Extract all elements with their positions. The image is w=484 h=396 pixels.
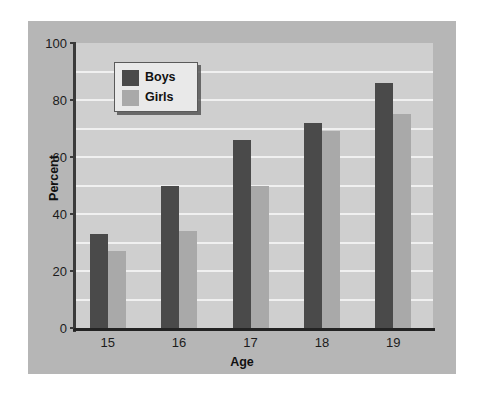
legend-label-girls: Girls [145, 90, 174, 105]
bar-girls-16 [179, 231, 197, 328]
x-axis-line [73, 328, 435, 331]
bar-boys-19 [375, 83, 393, 328]
y-tick-mark [70, 327, 74, 329]
x-tick-label: 18 [292, 336, 352, 350]
y-tick-mark [70, 270, 74, 272]
bar-girls-17 [251, 186, 269, 329]
y-tick-label: 100 [33, 37, 67, 50]
bar-girls-15 [108, 251, 126, 328]
x-tick-label: 15 [78, 336, 138, 350]
y-tick-mark [70, 156, 74, 158]
y-tick-label: 0 [33, 322, 67, 335]
legend-label-boys: Boys [145, 70, 176, 85]
y-tick-mark [70, 42, 74, 44]
y-tick-label: 80 [33, 94, 67, 107]
chart-legend: BoysGirls [114, 62, 198, 112]
x-tick-label: 16 [149, 336, 209, 350]
bar-boys-16 [161, 186, 179, 329]
bar-boys-18 [304, 123, 322, 328]
y-axis-title: Percent [47, 138, 61, 218]
y-tick-label: 20 [33, 265, 67, 278]
x-tick-label: 17 [221, 336, 281, 350]
bar-girls-19 [393, 114, 411, 328]
y-tick-mark [70, 213, 74, 215]
chart-figure: 020406080100 1516171819 Percent Age Boys… [28, 21, 456, 374]
y-axis-line [73, 42, 76, 332]
legend-swatch-boys [122, 70, 139, 86]
x-axis-title: Age [28, 355, 456, 369]
bar-girls-18 [322, 131, 340, 328]
bar-boys-17 [233, 140, 251, 328]
x-tick-label: 19 [363, 336, 423, 350]
y-tick-mark [70, 99, 74, 101]
legend-swatch-girls [122, 90, 139, 106]
bar-boys-15 [90, 234, 108, 328]
